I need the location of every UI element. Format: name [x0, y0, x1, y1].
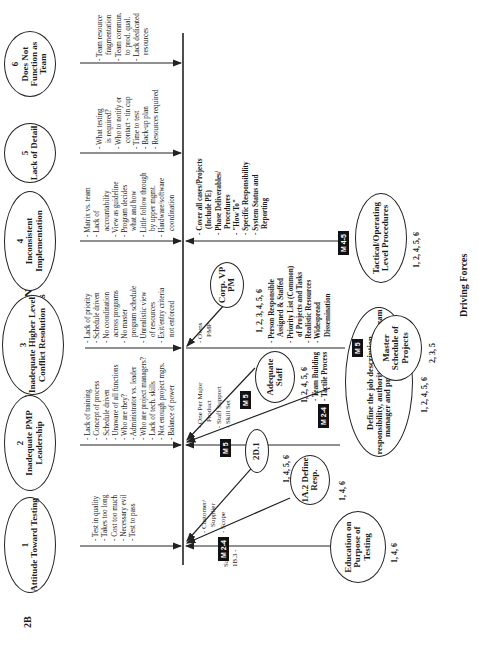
tactical-nums: 1, 2, 4, 5, 6 [412, 232, 421, 268]
page-label: 2B [22, 616, 33, 628]
restraining-list-4: Matrix vs. team Lack of accountability V… [84, 173, 177, 238]
list-item: accountability [103, 173, 112, 238]
list-item: Test in quality [92, 495, 101, 541]
customer-notes: Customer/ Supplier Scope [200, 500, 228, 533]
list-item: Lack of priority [84, 286, 93, 343]
restraining-list-3: Lack of priority Schedule driven No coor… [84, 286, 177, 343]
adequate-staff-nums: 1, 2, 4, 5, 6 [300, 367, 309, 403]
major-product-notes: One Per Major Product Staff Support Skil… [196, 382, 233, 428]
restraining-list-5: What testing is required? Who to notify … [96, 90, 161, 150]
restraining-list-2: Lack of training Concept of process Sche… [84, 357, 177, 440]
driving-2d1: 2D.1 [245, 429, 269, 473]
note-line: Priority List (Common) [287, 266, 296, 343]
list-item: Concept of process [93, 357, 102, 440]
list-item: Unrealistic view [140, 286, 149, 343]
list-item: Back-up plan [142, 90, 151, 150]
driving-heading: Driving Forces [458, 254, 469, 317]
list-item: Not enough project mgrs. [158, 357, 167, 440]
note-line: "How To" [233, 158, 242, 235]
note-line: Dissemination [324, 266, 333, 343]
milestone-badge: M 5 [352, 339, 363, 357]
list-item: Little follow through [140, 173, 149, 238]
note-line: Team Building [312, 352, 321, 401]
list-item: by upper mgmt. [149, 173, 158, 238]
restraining-force-4: 4Inconsistent Implementation [4, 191, 56, 291]
list-item: Hardware/software [158, 173, 167, 238]
list-item: fragmentation [105, 12, 114, 61]
milestone-badge: M 5 [220, 439, 231, 457]
list-item: View as guideline [112, 173, 121, 238]
corp-vp-notes: Owns PMP [196, 323, 215, 343]
list-item: Balance of power [168, 357, 177, 440]
force-label: Inconsistent Implementation [24, 210, 43, 272]
list-item: Matrix vs. team [84, 173, 93, 238]
list-item: Cost too much [111, 495, 120, 541]
list-item: of resources [149, 286, 158, 343]
driving-master-schedule: Master Schedule of Projects [370, 315, 422, 381]
define-resp-nums: 1, 4, 6 [338, 481, 347, 501]
list-item: program schedule [130, 286, 139, 343]
list-item: Schedule driven [103, 357, 112, 440]
note-line: of Projects and Tasks [296, 266, 305, 343]
note-line: Product [205, 382, 214, 428]
list-item: Takes too long [101, 495, 110, 541]
driving-tactical: Tactical/Operating Level Procedures [355, 193, 407, 283]
note-line: Phase Deliverables/ [215, 158, 224, 235]
restraining-force-1: 1Attitude Toward Testing [4, 497, 56, 593]
list-item: What testing [96, 90, 105, 150]
note-line: Specific Responsibility [242, 158, 251, 235]
note-line: Skill Set [224, 382, 233, 428]
force-label: Lack of Detail [29, 126, 39, 181]
2d1-nums: 1, 4, 5, 6 [282, 455, 291, 483]
list-item: Who are they? [121, 357, 130, 440]
list-item: coordination [168, 173, 177, 238]
note-line: System Status and [252, 158, 261, 235]
driving-education: Education on Purpose of Testing [330, 511, 386, 583]
list-item: Team commun. [115, 12, 124, 61]
list-item: Schedule driven [93, 286, 102, 343]
list-item: Lack of training [84, 357, 93, 440]
note-line: Realistic Resources [305, 266, 314, 343]
note-line: Owns [196, 323, 205, 343]
note-line: Reporting [261, 158, 270, 235]
list-item: Program decides [121, 173, 130, 238]
list-item: Resources required [152, 90, 161, 150]
note-line: Staff Support [215, 382, 224, 428]
note-line: Widespread [314, 266, 323, 343]
note-line: Scope [219, 500, 228, 533]
list-item: Who to notify or [115, 90, 124, 150]
list-item: across programs [112, 286, 121, 343]
restraining-list-1: Test in quality Takes too long Cost too … [92, 495, 138, 541]
note-line: Customer/ [200, 500, 209, 533]
restraining-force-2: 2Inadequate PMP Leadership [4, 395, 56, 491]
list-item: to prod. qual. [124, 12, 133, 61]
note-line: Assigned & Staffed [277, 266, 286, 343]
note-line: Procedures [224, 158, 233, 235]
force-field-diagram: 2B PMP/MANAGEMENT IS INADEQUATE Restrain… [0, 0, 478, 653]
list-item: what and how [130, 173, 139, 238]
restraining-force-3: 3Inadequate Higher Level Conflict Resolu… [2, 295, 64, 395]
note-line: PMP [205, 323, 214, 343]
milestone-badge: M 4-5 [338, 231, 349, 255]
tactical-notes: Cover all cases/Projects (Include PE) Ph… [196, 158, 270, 235]
note-line: Cover all cases/Projects [196, 158, 205, 235]
list-item: not enforced [168, 286, 177, 343]
driving-define-resp: 1A.2 Define Resp. [290, 455, 330, 505]
note-line: Tactile Process [321, 352, 330, 401]
list-item: Unaware of all functions [112, 357, 121, 440]
master-schedule-nums: 2, 3, 5 [428, 343, 437, 363]
list-item: Team resource [96, 12, 105, 61]
force-label: Does Not Function as Team [20, 42, 49, 87]
force-label: Inadequate PMP Leadership [24, 410, 43, 475]
milestone-badge: M 5 [240, 391, 251, 409]
note-line: 1B.3 - [231, 548, 240, 573]
list-item: Lack of tech. skills [149, 357, 158, 440]
adequate-staff-notes: Team Building Tactile Process [312, 352, 331, 401]
corp-vp-nums: 1, 2, 3, 4, 5, 6 [255, 289, 264, 333]
force-label: Attitude Toward Testing [29, 498, 39, 592]
list-item: is required? [105, 90, 114, 150]
list-item: contact - tin cup [124, 90, 133, 150]
job-description-nums: 1, 2, 4, 5, 6 [420, 377, 429, 413]
list-item: Necessary evil [120, 495, 129, 541]
education-nums: 1, 4, 6 [390, 543, 399, 563]
